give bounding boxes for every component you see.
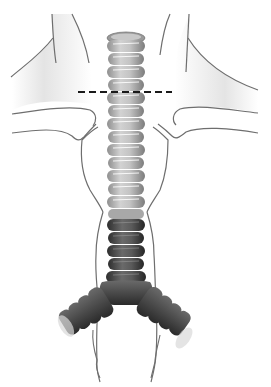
neck-right [160, 14, 258, 113]
trachea [100, 32, 153, 305]
trachea-illustration [0, 0, 271, 387]
lower-outline-lines [93, 330, 160, 378]
trachea-upper-rings [107, 40, 145, 219]
trachea-lower-rings [106, 219, 146, 283]
anatomy-svg [0, 0, 271, 387]
neck-left [11, 14, 92, 110]
